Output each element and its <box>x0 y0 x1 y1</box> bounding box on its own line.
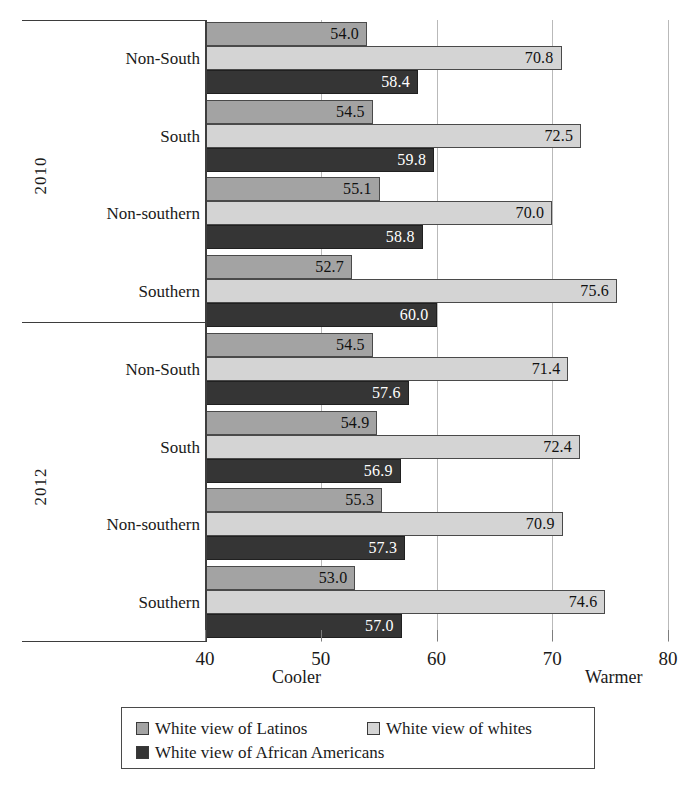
bar-value-label: 53.0 <box>319 570 355 586</box>
axis-anchor-warmer: Warmer <box>585 668 643 686</box>
bar-value-label: 60.0 <box>400 307 436 323</box>
legend-swatch-icon-latinos <box>136 722 149 735</box>
bar[interactable]: 58.8 <box>205 225 423 249</box>
tick-mark-70 <box>552 630 553 641</box>
bar[interactable]: 57.0 <box>205 614 402 638</box>
bar-value-label: 70.0 <box>515 205 551 221</box>
bar[interactable]: 54.5 <box>205 100 373 124</box>
legend-item-african-americans[interactable]: White view of African Americans <box>136 744 384 761</box>
bar[interactable]: 70.9 <box>205 512 563 536</box>
tick-mark-80 <box>668 630 669 641</box>
bar-value-label: 55.1 <box>343 181 379 197</box>
legend-label-african-americans: White view of African Americans <box>155 744 384 761</box>
plot-area: 54.070.858.454.572.559.855.170.058.852.7… <box>205 20 668 642</box>
bar-value-label: 56.9 <box>364 463 400 479</box>
bar[interactable]: 54.5 <box>205 333 373 357</box>
category-label: Southern <box>10 283 200 300</box>
category-label: Non-South <box>10 50 200 67</box>
category-label-column: Non-SouthSouthNon-southernSouthernNon-So… <box>0 20 200 642</box>
bar-value-label: 72.4 <box>543 439 579 455</box>
bar[interactable]: 52.7 <box>205 255 352 279</box>
tick-label-50: 50 <box>291 649 351 668</box>
bar[interactable]: 72.4 <box>205 435 580 459</box>
bar[interactable]: 53.0 <box>205 566 355 590</box>
tick-mark-40 <box>205 630 206 641</box>
bar[interactable]: 70.8 <box>205 46 562 70</box>
gridline-70 <box>552 20 553 642</box>
bar-value-label: 74.6 <box>569 594 605 610</box>
bar-value-label: 57.3 <box>368 540 404 556</box>
tick-label-60: 60 <box>407 649 467 668</box>
bar[interactable]: 60.0 <box>205 303 437 327</box>
tick-label-80: 80 <box>638 649 698 668</box>
bar[interactable]: 75.6 <box>205 279 617 303</box>
tick-mark-50 <box>321 630 322 641</box>
category-label: Southern <box>10 594 200 611</box>
bar-value-label: 57.6 <box>372 385 408 401</box>
gridline-80 <box>668 20 669 642</box>
bar-value-label: 57.0 <box>365 618 401 634</box>
legend-swatch-icon-african-americans <box>136 746 149 759</box>
tick-label-40: 40 <box>175 649 235 668</box>
bar-value-label: 58.4 <box>381 74 417 90</box>
bar[interactable]: 55.3 <box>205 488 382 512</box>
bar[interactable]: 55.1 <box>205 177 380 201</box>
bar[interactable]: 54.0 <box>205 22 367 46</box>
legend-label-whites: White view of whites <box>386 720 532 737</box>
tick-label-70: 70 <box>522 649 582 668</box>
bar[interactable]: 74.6 <box>205 590 605 614</box>
bar[interactable]: 70.0 <box>205 201 552 225</box>
axis-anchor-cooler: Cooler <box>272 668 321 686</box>
gridline-60 <box>437 20 438 642</box>
legend-label-latinos: White view of Latinos <box>155 720 308 737</box>
bar[interactable]: 58.4 <box>205 70 418 94</box>
value-axis-line <box>205 20 207 642</box>
year-label-2010: 2010 <box>32 106 49 246</box>
bar[interactable]: 57.6 <box>205 381 409 405</box>
bar-value-label: 75.6 <box>580 283 616 299</box>
legend: White view of Latinos White view of whit… <box>121 707 595 769</box>
bar-value-label: 54.5 <box>336 104 372 120</box>
bar-value-label: 70.9 <box>526 516 562 532</box>
year-label-2012: 2012 <box>32 417 49 557</box>
bar[interactable]: 71.4 <box>205 357 568 381</box>
bar-value-label: 71.4 <box>532 361 568 377</box>
bar[interactable]: 57.3 <box>205 536 405 560</box>
bar[interactable]: 56.9 <box>205 459 401 483</box>
bar-value-label: 72.5 <box>544 128 580 144</box>
bar-value-label: 54.5 <box>336 337 372 353</box>
bar[interactable]: 54.9 <box>205 411 377 435</box>
bar-value-label: 70.8 <box>525 50 561 66</box>
x-axis: 4050607080 <box>205 641 668 642</box>
bar-value-label: 54.9 <box>341 415 377 431</box>
bar-value-label: 52.7 <box>315 259 351 275</box>
legend-item-latinos[interactable]: White view of Latinos <box>136 720 308 737</box>
bar-value-label: 55.3 <box>345 492 381 508</box>
tick-mark-60 <box>437 630 438 641</box>
bar-value-label: 58.8 <box>386 229 422 245</box>
bar[interactable]: 72.5 <box>205 124 581 148</box>
bar-chart: 54.070.858.454.572.559.855.170.058.852.7… <box>0 0 700 791</box>
bar[interactable]: 59.8 <box>205 148 434 172</box>
category-label: Non-South <box>10 361 200 378</box>
legend-item-whites[interactable]: White view of whites <box>367 720 532 737</box>
legend-swatch-icon-whites <box>367 722 380 735</box>
bar-value-label: 59.8 <box>397 152 433 168</box>
bar-value-label: 54.0 <box>330 26 366 42</box>
